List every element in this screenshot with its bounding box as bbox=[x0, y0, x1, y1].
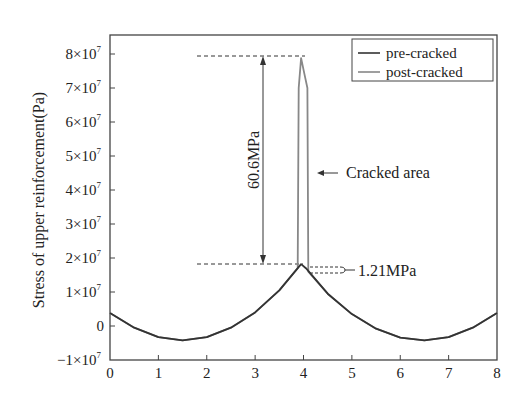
series-group bbox=[110, 58, 497, 340]
legend: pre-cracked post-cracked bbox=[352, 39, 493, 81]
x-tick-label: 0 bbox=[106, 365, 114, 381]
y-tick-label: 8×107 bbox=[66, 44, 102, 62]
x-tick-label: 4 bbox=[300, 365, 308, 381]
y-tick-label: 3×107 bbox=[66, 214, 102, 232]
x-tick-label: 5 bbox=[348, 365, 356, 381]
x-axis: 012345678 bbox=[106, 355, 501, 381]
stress-chart: 8×1077×1076×1075×1074×1073×1072×1071×107… bbox=[0, 0, 529, 403]
bracket-icon bbox=[340, 267, 345, 273]
arrowhead-up-icon bbox=[260, 56, 266, 65]
y-tick-label: 5×107 bbox=[66, 146, 102, 164]
y-tick-label: 7×107 bbox=[66, 78, 102, 96]
x-tick-label: 7 bbox=[445, 365, 453, 381]
series-line-post-cracked bbox=[110, 58, 497, 340]
x-tick-label: 2 bbox=[203, 365, 211, 381]
x-tick-label: 3 bbox=[251, 365, 259, 381]
y-tick-label: 0 bbox=[97, 318, 105, 334]
crack-label: Cracked area bbox=[346, 164, 430, 181]
y-tick-label: 6×107 bbox=[66, 112, 102, 130]
y-axis-title: Stress of upper reinforcement(Pa) bbox=[30, 92, 48, 308]
y-tick-label: −1×107 bbox=[57, 350, 101, 368]
plot-frame bbox=[110, 35, 497, 360]
y-tick-label: 2×107 bbox=[66, 248, 102, 266]
gap-label: 60.6MPa bbox=[245, 131, 262, 189]
small-gap-label: 1.21MPa bbox=[358, 262, 416, 279]
arrowhead-left-icon bbox=[317, 170, 324, 176]
x-tick-label: 8 bbox=[493, 365, 501, 381]
x-tick-label: 6 bbox=[397, 365, 405, 381]
series-line-pre-cracked bbox=[110, 264, 497, 340]
y-tick-label: 1×107 bbox=[66, 282, 102, 300]
y-axis: 8×1077×1076×1075×1074×1073×1072×1071×107… bbox=[57, 44, 115, 368]
legend-label-post: post-cracked bbox=[386, 64, 463, 80]
arrowhead-down-icon bbox=[260, 255, 266, 264]
y-tick-label: 4×107 bbox=[66, 180, 102, 198]
x-tick-label: 1 bbox=[155, 365, 163, 381]
legend-label-pre: pre-cracked bbox=[386, 45, 457, 61]
